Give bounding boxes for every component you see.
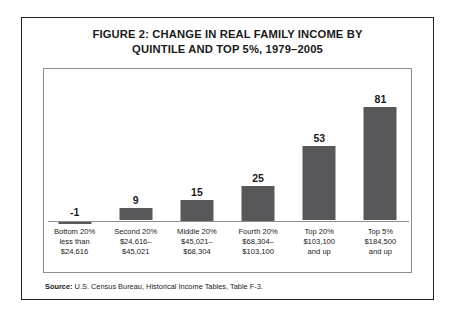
bar-value-label: 25 (252, 172, 264, 184)
bar[interactable] (303, 146, 336, 220)
bar-group: -1Bottom 20%less than$24,616 (44, 69, 105, 272)
figure-title-line-2: QUINTILE AND TOP 5%, 1979–2005 (21, 42, 434, 57)
category-label-line-2: $103,100 (287, 237, 351, 247)
bar[interactable] (242, 186, 275, 221)
source-label: Source: (45, 282, 73, 291)
source-text: U.S. Census Bureau, Historical Income Ta… (73, 282, 263, 291)
bar-value-label: 9 (133, 194, 139, 206)
bar[interactable] (119, 208, 152, 221)
chart-plot-area: -1Bottom 20%less than$24,6169Second 20%$… (43, 68, 412, 273)
category-label-line-2: $68,304– (226, 237, 290, 247)
bar-group: 25Fourth 20%$68,304–$103,100 (228, 69, 289, 272)
bar-group: 53Top 20%$103,100and up (289, 69, 350, 272)
source-note: Source: U.S. Census Bureau, Historical I… (45, 282, 263, 291)
category-label: Fourth 20%$68,304–$103,100 (226, 227, 290, 258)
category-label-line-3: $24,616 (43, 247, 107, 257)
category-label-line-2: $24,616– (104, 237, 168, 247)
bar[interactable] (58, 222, 91, 224)
category-label: Top 5%$184,500and up (348, 227, 412, 258)
category-label-line-3: $45,021 (104, 247, 168, 257)
category-label-line-1: Middle 20% (165, 227, 229, 237)
category-label-line-1: Top 5% (348, 227, 412, 237)
figure-title-line-1: FIGURE 2: CHANGE IN REAL FAMILY INCOME B… (21, 27, 434, 42)
category-label-line-3: and up (287, 247, 351, 257)
figure-title: FIGURE 2: CHANGE IN REAL FAMILY INCOME B… (21, 27, 434, 56)
bar[interactable] (364, 107, 397, 220)
bar-group: 9Second 20%$24,616–$45,021 (105, 69, 166, 272)
bar-group: 15Middle 20%$45,021–$68,304 (166, 69, 227, 272)
bar-group: 81Top 5%$184,500and up (350, 69, 411, 272)
category-label-line-3: and up (348, 247, 412, 257)
category-label-line-1: Bottom 20% (43, 227, 107, 237)
category-label-line-1: Fourth 20% (226, 227, 290, 237)
category-label-line-1: Top 20% (287, 227, 351, 237)
category-label-line-2: $184,500 (348, 237, 412, 247)
category-label: Bottom 20%less than$24,616 (43, 227, 107, 258)
bar[interactable] (180, 200, 213, 221)
bar-value-label: 53 (313, 132, 325, 144)
category-label-line-3: $68,304 (165, 247, 229, 257)
category-label-line-3: $103,100 (226, 247, 290, 257)
bar-value-label: 15 (191, 186, 203, 198)
category-label: Second 20%$24,616–$45,021 (104, 227, 168, 258)
category-label-line-2: less than (43, 237, 107, 247)
bar-value-label: 81 (375, 93, 387, 105)
chart-plot-inner: -1Bottom 20%less than$24,6169Second 20%$… (44, 69, 411, 272)
category-label: Middle 20%$45,021–$68,304 (165, 227, 229, 258)
category-label-line-1: Second 20% (104, 227, 168, 237)
category-label-line-2: $45,021– (165, 237, 229, 247)
bar-value-label: -1 (70, 206, 79, 218)
category-label: Top 20%$103,100and up (287, 227, 351, 258)
figure-root: FIGURE 2: CHANGE IN REAL FAMILY INCOME B… (0, 0, 455, 314)
